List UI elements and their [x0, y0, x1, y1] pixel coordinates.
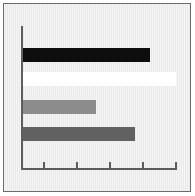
x-axis-tick-3	[109, 162, 111, 170]
bar-series-1	[23, 48, 150, 62]
x-axis-tick-4	[142, 162, 144, 170]
bar-chart-figure	[0, 0, 195, 196]
bar-series-2	[23, 72, 176, 86]
bar-series-4	[23, 127, 135, 141]
chart-plate	[3, 3, 191, 192]
x-axis-tick-5	[175, 162, 177, 170]
scan-texture-overlay	[4, 4, 190, 191]
x-axis-tick-2	[76, 162, 78, 170]
bar-series-3	[23, 100, 96, 114]
x-axis-tick-1	[43, 162, 45, 170]
